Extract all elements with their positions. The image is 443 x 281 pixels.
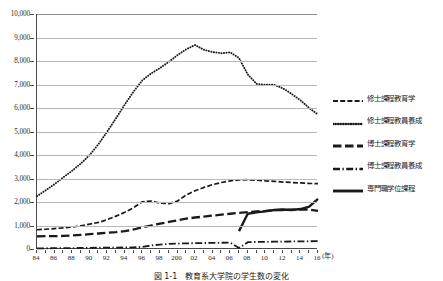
legend-item[interactable]: 修士課程教員養成: [333, 115, 441, 125]
y-axis-tick: [30, 108, 34, 109]
x-axis-tick: [282, 250, 283, 253]
y-axis-tick-label: 4,000: [14, 151, 30, 159]
legend-label: 修士課程教育学: [367, 92, 415, 103]
x-axis-tick: [229, 250, 230, 253]
figure-caption: 図 1-1 教育系大学院の学生数の変化: [0, 270, 443, 281]
x-axis-tick: [238, 250, 239, 253]
x-axis-tick-label: 86: [50, 254, 57, 262]
x-axis-tick: [299, 250, 300, 253]
x-axis: 84868890929496982000204060810121416: [36, 250, 317, 264]
x-axis-tick: [291, 250, 292, 253]
y-axis-tick: [30, 226, 34, 227]
x-axis-tick-label: 04: [208, 254, 215, 262]
y-axis-tick: [30, 132, 34, 133]
gridline: [37, 179, 317, 180]
gridline: [37, 61, 317, 62]
legend-swatch-icon: [333, 115, 363, 125]
x-axis-tick: [106, 250, 107, 253]
x-axis-tick: [124, 250, 125, 253]
x-axis-tick-label: 14: [296, 254, 303, 262]
gridline: [37, 132, 317, 133]
x-axis-tick-label: 10: [261, 254, 268, 262]
x-axis-tick: [141, 250, 142, 253]
gridline: [37, 155, 317, 156]
legend-item[interactable]: 専門職学位課程: [333, 182, 441, 192]
x-axis-tick-label: 12: [278, 254, 285, 262]
gridline: [37, 202, 317, 203]
y-axis-tick-label: 3,000: [14, 175, 30, 183]
y-axis-tick-label: 7,000: [14, 81, 30, 89]
x-axis-tick: [45, 250, 46, 253]
x-axis-tick: [308, 250, 309, 253]
x-axis-tick-label: 84: [33, 254, 40, 262]
x-axis-tick-label: 08: [243, 254, 250, 262]
y-axis-tick: [30, 155, 34, 156]
y-axis: 01,0002,0003,0004,0005,0006,0007,0008,00…: [0, 14, 34, 249]
x-axis-tick: [133, 250, 134, 253]
legend-label: 博士課程教員養成: [367, 159, 421, 170]
y-axis-tick: [30, 61, 34, 62]
x-axis-tick-label: 88: [68, 254, 75, 262]
legend-swatch-icon: [333, 92, 363, 102]
x-axis-tick-label: 94: [120, 254, 127, 262]
x-axis-tick: [264, 250, 265, 253]
x-axis-tick-label: 16: [314, 254, 321, 262]
x-axis-tick: [71, 250, 72, 253]
x-axis-tick: [212, 250, 213, 253]
x-axis-tick: [159, 250, 160, 253]
legend-item[interactable]: 修士課程教育学: [333, 92, 441, 102]
gridline: [37, 226, 317, 227]
x-axis-unit-label: (年): [322, 250, 334, 260]
x-axis-tick-label: 92: [103, 254, 110, 262]
x-axis-tick: [177, 250, 178, 253]
x-axis-tick: [247, 250, 248, 253]
legend: 修士課程教育学修士課程教員養成博士課程教育学博士課程教員養成専門職学位課程: [333, 92, 441, 192]
y-axis-tick-label: 9,000: [14, 34, 30, 42]
y-axis-tick-label: 5,000: [14, 128, 30, 136]
x-axis-tick-label: 90: [85, 254, 92, 262]
legend-swatch-icon: [333, 182, 363, 192]
x-axis-tick-label: 96: [138, 254, 145, 262]
gridline: [37, 85, 317, 86]
x-axis-tick: [80, 250, 81, 253]
series-line: [37, 210, 318, 237]
legend-item[interactable]: 博士課程教員養成: [333, 160, 441, 170]
x-axis-tick: [97, 250, 98, 253]
x-axis-tick-label: 02: [191, 254, 198, 262]
x-axis-tick-label: 06: [226, 254, 233, 262]
series-line: [37, 45, 318, 196]
y-axis-tick: [30, 202, 34, 203]
x-axis-tick: [194, 250, 195, 253]
y-axis-tick-label: 8,000: [14, 57, 30, 65]
gridline: [37, 14, 317, 15]
legend-label: 専門職学位課程: [367, 182, 415, 193]
x-axis-tick-label: 98: [155, 254, 162, 262]
x-axis-tick: [317, 250, 318, 253]
y-axis-tick-label: 10,000: [11, 10, 30, 18]
y-axis-tick-label: 2,000: [14, 198, 30, 206]
x-axis-tick: [220, 250, 221, 253]
series-line: [37, 180, 318, 230]
y-axis-tick: [30, 85, 34, 86]
y-axis-tick: [30, 14, 34, 15]
y-axis-tick-label: 1,000: [14, 222, 30, 230]
x-axis-tick: [150, 250, 151, 253]
x-axis-tick-label: 200: [171, 254, 182, 262]
legend-swatch-icon: [333, 137, 363, 147]
plot-area: [36, 14, 317, 249]
gridline: [37, 108, 317, 109]
legend-item[interactable]: 博士課程教育学: [333, 137, 441, 147]
gridline: [37, 38, 317, 39]
legend-label: 博士課程教育学: [367, 137, 415, 148]
x-axis-tick: [54, 250, 55, 253]
legend-label: 修士課程教員養成: [367, 114, 421, 125]
series-line: [37, 241, 318, 248]
x-axis-tick: [115, 250, 116, 253]
x-axis-tick: [256, 250, 257, 253]
y-axis-tick: [30, 179, 34, 180]
x-axis-tick: [273, 250, 274, 253]
legend-swatch-icon: [333, 160, 363, 170]
x-axis-tick: [203, 250, 204, 253]
y-axis-tick: [30, 249, 34, 250]
